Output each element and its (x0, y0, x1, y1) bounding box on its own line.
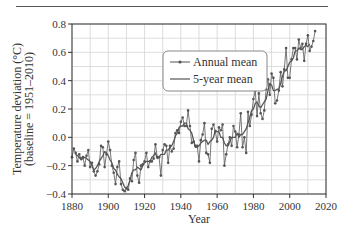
y-tick-labels: −0.4−0.20.00.20.40.60.8 (46, 18, 66, 200)
annual-mean-marker (98, 163, 101, 166)
annual-mean-marker (176, 129, 179, 132)
annual-mean-marker (219, 129, 222, 132)
annual-mean-marker (74, 152, 77, 155)
annual-mean-marker (160, 174, 163, 177)
annual-mean-marker (296, 58, 299, 61)
annual-mean-marker (76, 160, 79, 163)
annual-mean-marker (281, 85, 284, 88)
annual-mean-marker (310, 45, 313, 48)
x-tick-label: 2000 (279, 200, 302, 212)
y-tick-label: 0.0 (52, 131, 66, 143)
annual-mean-marker (111, 164, 114, 167)
annual-mean-marker (187, 109, 190, 112)
annual-mean-marker (136, 174, 139, 177)
x-tick-label: 1920 (134, 200, 157, 212)
annual-mean-marker (261, 118, 264, 121)
annual-mean-marker (123, 190, 126, 193)
annual-mean-marker (245, 152, 248, 155)
annual-mean-marker (151, 160, 154, 163)
x-tick-label: 2020 (315, 200, 338, 212)
annual-mean-marker (92, 170, 95, 173)
y-tick-label: −0.2 (46, 160, 66, 172)
annual-mean-marker (270, 72, 273, 75)
annual-mean-marker (118, 160, 121, 163)
annual-mean-marker (223, 164, 226, 167)
annual-mean-marker (158, 156, 161, 159)
annual-mean-marker (288, 77, 291, 80)
annual-mean-marker (214, 130, 217, 133)
annual-mean-marker (283, 68, 286, 71)
annual-mean-marker (256, 115, 259, 118)
annual-mean-marker (243, 136, 246, 139)
annual-mean-marker (109, 149, 112, 152)
grid (72, 24, 326, 194)
annual-mean-marker (167, 162, 170, 165)
annual-mean-marker (143, 160, 146, 163)
annual-mean-marker (78, 153, 81, 156)
annual-mean-marker (225, 153, 228, 156)
legend-annual-marker-icon (178, 60, 181, 63)
annual-mean-marker (178, 132, 181, 135)
annual-mean-marker (278, 89, 281, 92)
temperature-chart: 18801900192019401960198020002020 −0.4−0.… (0, 0, 347, 234)
annual-mean-marker (263, 109, 266, 112)
annual-mean-marker (239, 112, 242, 115)
annual-mean-marker (209, 162, 212, 165)
annual-mean-marker (207, 153, 210, 156)
annual-mean-marker (170, 150, 173, 153)
annual-mean-marker (249, 125, 252, 128)
y-tick-label: 0.8 (52, 18, 66, 30)
annual-mean-marker (234, 130, 237, 133)
annual-mean-marker (107, 140, 110, 143)
annual-mean-marker (250, 113, 253, 116)
annual-mean-marker (297, 38, 300, 41)
annual-mean-marker (200, 139, 203, 142)
annual-mean-marker (87, 149, 90, 152)
annual-mean-marker (165, 145, 168, 148)
annual-mean-marker (161, 149, 164, 152)
annual-mean-marker (154, 143, 157, 146)
annual-mean-marker (114, 183, 117, 186)
annual-mean-marker (241, 146, 244, 149)
annual-mean-marker (89, 166, 92, 169)
annual-mean-marker (232, 125, 235, 128)
annual-mean-marker (180, 120, 183, 123)
annual-mean-marker (147, 166, 150, 169)
annual-mean-marker (290, 58, 293, 61)
annual-mean-marker (314, 30, 317, 33)
annual-mean-marker (73, 147, 76, 150)
annual-mean-marker (285, 47, 288, 50)
legend: Annual mean 5-year mean (163, 51, 267, 91)
annual-mean-marker (221, 123, 224, 126)
x-tick-label: 1940 (170, 200, 193, 212)
legend-5-year-mean-label: 5-year mean (193, 72, 253, 86)
annual-mean-marker (247, 111, 250, 114)
annual-mean-marker (303, 60, 306, 63)
x-axis-title: Year (188, 212, 210, 226)
annual-mean-marker (127, 188, 130, 191)
annual-mean-marker (102, 146, 105, 149)
y-axis-title: Temperature deviation (°C) (baseline = 1… (10, 43, 36, 175)
annual-mean-marker (312, 40, 315, 43)
annual-mean-marker (116, 166, 119, 169)
annual-mean-marker (85, 154, 88, 157)
x-tick-label: 1880 (61, 200, 84, 212)
annual-mean-marker (94, 174, 97, 177)
annual-mean-marker (229, 136, 232, 139)
y-tick-label: 0.2 (52, 103, 66, 115)
legend-annual-mean-label: Annual mean (193, 55, 257, 69)
x-tick-labels: 18801900192019401960198020002020 (61, 200, 338, 212)
annual-mean-marker (152, 157, 155, 160)
y-axis-title-sub: (baseline = 1951–2010) (22, 52, 36, 166)
annual-mean-marker (294, 47, 297, 50)
y-tick-label: 0.6 (52, 46, 66, 58)
annual-mean-marker (279, 71, 282, 74)
annual-mean-marker (276, 99, 279, 102)
annual-mean-marker (274, 102, 277, 105)
annual-mean-marker (212, 123, 215, 126)
annual-mean-marker (216, 140, 219, 143)
x-tick-label: 1960 (206, 200, 229, 212)
annual-mean-marker (91, 162, 94, 165)
annual-mean-marker (259, 112, 262, 115)
x-tick-label: 1900 (97, 200, 120, 212)
